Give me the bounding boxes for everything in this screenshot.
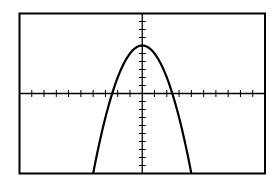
graph-window <box>0 0 274 182</box>
